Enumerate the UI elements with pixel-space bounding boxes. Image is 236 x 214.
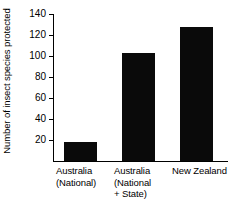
y-tick-label: 40 bbox=[16, 114, 46, 124]
y-tick-label: 20 bbox=[16, 135, 46, 145]
y-tick-label: 120 bbox=[16, 30, 46, 40]
y-tick-label: 80 bbox=[16, 72, 46, 82]
y-axis-title: Number of insect species protected bbox=[0, 0, 14, 162]
plot-area bbox=[54, 14, 228, 161]
y-tick-label: 140 bbox=[16, 9, 46, 19]
x-tick-label-australia-national: Australia (National) bbox=[56, 165, 96, 188]
x-tick-label-new-zealand: New Zealand bbox=[172, 165, 227, 177]
x-tick-label-australia-national-state: Australia (National + State) bbox=[114, 165, 151, 200]
x-axis-tick-labels: Australia (National) Australia (National… bbox=[54, 165, 236, 214]
bar-new-zealand bbox=[180, 27, 213, 161]
bar-chart-figure: Number of insect species protected 140 1… bbox=[0, 0, 236, 214]
y-tick-label: 100 bbox=[16, 51, 46, 61]
y-axis-tick-labels: 140 120 100 80 60 40 20 bbox=[14, 0, 46, 214]
bar-australia-national bbox=[64, 142, 97, 161]
bar-australia-national-state bbox=[122, 53, 155, 161]
y-tick-label: 60 bbox=[16, 93, 46, 103]
x-axis-line bbox=[53, 161, 228, 162]
